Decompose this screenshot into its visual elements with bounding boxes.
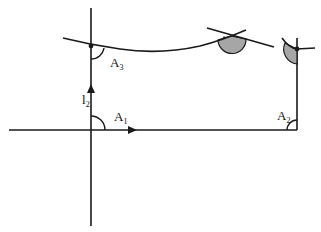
angle-arc-a3	[91, 48, 104, 59]
label-l2: l2	[82, 92, 90, 109]
point-corner	[295, 47, 300, 52]
label-a2: A2	[277, 108, 290, 125]
point-a3	[89, 44, 94, 49]
arrow-right-icon	[128, 126, 137, 134]
angle-arc-a1	[91, 116, 105, 130]
label-a1: A1	[114, 109, 127, 126]
label-a3: A3	[110, 55, 123, 72]
geometry-diagram: A3 l2 A1 A2	[0, 0, 321, 232]
arrow-up-icon	[87, 84, 95, 93]
